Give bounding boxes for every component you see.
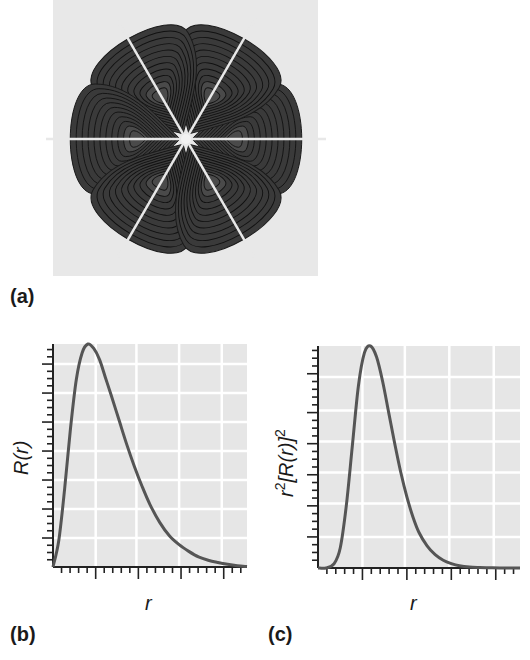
ylabel-c-mid: [R(r)] xyxy=(275,437,297,483)
y-axis-label-b: R(r) xyxy=(10,441,33,475)
panel-label-b: (b) xyxy=(10,623,36,646)
panel-label-c: (c) xyxy=(268,623,292,646)
panel-label-a: (a) xyxy=(10,285,34,308)
x-axis-label-c: r xyxy=(410,592,417,615)
ylabel-c-sup1: 2 xyxy=(272,483,288,491)
ylabel-c-base: r xyxy=(275,490,297,497)
ylabel-c-sup2: 2 xyxy=(272,429,288,437)
y-axis-label-c: r2[R(r)]2 xyxy=(272,429,298,497)
chart-c-radial-probability xyxy=(0,0,530,660)
x-axis-label-b: r xyxy=(145,592,152,615)
